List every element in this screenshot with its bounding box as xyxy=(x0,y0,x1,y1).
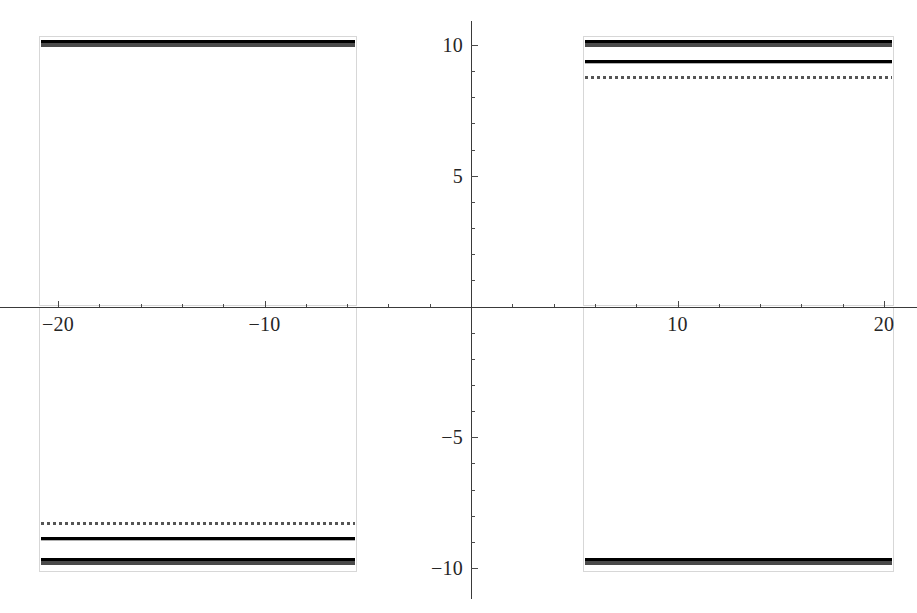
x-tick-major xyxy=(678,301,679,307)
y-tick-minor xyxy=(471,411,475,412)
y-tick-minor xyxy=(471,71,475,72)
x-tick-minor xyxy=(347,304,348,307)
curve-upper-branch-dark xyxy=(41,40,355,47)
x-tick-minor xyxy=(636,304,637,307)
curve-upper-branch-dark xyxy=(585,40,893,47)
y-tick-label: −5 xyxy=(441,426,463,449)
x-tick-major xyxy=(884,301,885,307)
lower-left-panel xyxy=(39,307,357,572)
x-tick-minor xyxy=(760,304,761,307)
x-tick-minor xyxy=(306,304,307,307)
lower-right-panel xyxy=(583,307,895,572)
x-tick-minor xyxy=(141,304,142,307)
y-tick-minor xyxy=(471,516,475,517)
x-tick-minor xyxy=(388,304,389,307)
y-tick-major xyxy=(471,437,478,438)
y-tick-minor xyxy=(471,542,475,543)
plot-figure: −20−101020105−5−10 xyxy=(0,0,917,613)
y-tick-minor xyxy=(471,150,475,151)
y-tick-minor xyxy=(471,385,475,386)
x-tick-minor xyxy=(99,304,100,307)
y-tick-major xyxy=(471,568,478,569)
y-tick-label: 5 xyxy=(453,164,463,187)
y-tick-minor xyxy=(471,254,475,255)
curve-lower-branch-dotted xyxy=(41,522,355,525)
x-tick-label: −20 xyxy=(42,313,74,336)
x-tick-minor xyxy=(595,304,596,307)
x-tick-label: −10 xyxy=(249,313,281,336)
curve-upper-branch-gray xyxy=(585,60,893,64)
curve-lower-branch-dark xyxy=(41,558,355,565)
x-tick-minor xyxy=(430,304,431,307)
y-axis-line xyxy=(471,21,472,599)
x-tick-label: 20 xyxy=(874,313,894,336)
y-tick-major xyxy=(471,176,478,177)
x-tick-minor xyxy=(719,304,720,307)
x-axis-line xyxy=(0,307,917,308)
x-tick-major xyxy=(58,301,59,307)
y-tick-minor xyxy=(471,228,475,229)
x-tick-minor xyxy=(843,304,844,307)
x-tick-major xyxy=(265,301,266,307)
curve-lower-branch-dark xyxy=(585,558,893,565)
y-tick-minor xyxy=(471,280,475,281)
upper-left-panel xyxy=(39,36,357,307)
x-tick-minor xyxy=(182,304,183,307)
y-tick-minor xyxy=(471,97,475,98)
x-tick-minor xyxy=(554,304,555,307)
x-tick-minor xyxy=(223,304,224,307)
x-tick-minor xyxy=(512,304,513,307)
x-tick-label: 10 xyxy=(667,313,687,336)
y-tick-minor xyxy=(471,202,475,203)
y-tick-minor xyxy=(471,333,475,334)
y-tick-minor xyxy=(471,359,475,360)
y-tick-minor xyxy=(471,490,475,491)
y-tick-minor xyxy=(471,123,475,124)
y-tick-major xyxy=(471,45,478,46)
x-tick-minor xyxy=(801,304,802,307)
y-tick-label: −10 xyxy=(431,557,463,580)
curve-upper-branch-dotted xyxy=(585,76,893,79)
y-tick-minor xyxy=(471,463,475,464)
curve-lower-branch-gray xyxy=(41,537,355,541)
y-tick-label: 10 xyxy=(443,34,463,57)
